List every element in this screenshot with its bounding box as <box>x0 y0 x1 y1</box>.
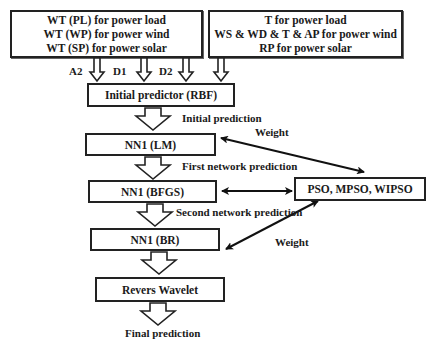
optimizer-box: PSO, MPSO, WIPSO <box>294 177 426 201</box>
down-arrow-icon <box>142 252 176 274</box>
label-d2: D2 <box>159 65 172 77</box>
down-arrow-icon <box>136 108 170 130</box>
nn1-bfgs-box: NN1 (BFGS) <box>88 180 217 203</box>
down-arrow-icon <box>138 204 172 226</box>
initial-predictor-label: Initial predictor (RBF) <box>105 88 217 102</box>
second-network-prediction-label: Second network prediction <box>176 206 302 218</box>
initial-prediction-label: Initial prediction <box>182 112 262 124</box>
input-line-power-wind: WT (WP) for power wind <box>44 27 170 41</box>
nn1-br-box: NN1 (BR) <box>90 228 220 251</box>
down-arrow-icon <box>137 58 151 81</box>
nn1-bfgs-label: NN1 (BFGS) <box>121 185 184 199</box>
input-line-power-load: WT (PL) for power load <box>47 13 166 27</box>
label-d1: D1 <box>113 65 126 77</box>
down-arrow-icon <box>141 303 175 325</box>
weight-label-bottom: Weight <box>275 236 309 248</box>
down-arrow-icon <box>214 58 228 81</box>
weight-label-top: Weight <box>255 126 289 138</box>
optimizer-label: PSO, MPSO, WIPSO <box>307 182 412 196</box>
input-line-power-solar: RP for power solar <box>259 41 352 55</box>
revers-wavelet-label: Revers Wavelet <box>122 283 198 297</box>
input-box-weather-variables: T for power load WS & WD & T & AP for po… <box>208 10 403 58</box>
input-box-wavelet-transform: WT (PL) for power load WT (WP) for power… <box>10 10 203 58</box>
down-arrow-icon <box>136 157 170 179</box>
final-prediction-label: Final prediction <box>125 327 200 339</box>
nn1-br-label: NN1 (BR) <box>131 233 180 247</box>
input-line-power-wind: WS & WD & T & AP for power wind <box>214 27 397 41</box>
input-line-power-load: T for power load <box>264 13 346 27</box>
revers-wavelet-box: Revers Wavelet <box>95 277 225 302</box>
nn1-lm-label: NN1 (LM) <box>125 138 176 152</box>
initial-predictor-box: Initial predictor (RBF) <box>87 83 235 107</box>
first-network-prediction-label: First network prediction <box>182 160 297 172</box>
down-arrow-icon <box>90 58 104 81</box>
down-arrow-icon <box>179 58 193 81</box>
input-line-power-solar: WT (SP) for power solar <box>46 41 167 55</box>
label-a2: A2 <box>69 65 82 77</box>
nn1-lm-box: NN1 (LM) <box>85 133 216 156</box>
